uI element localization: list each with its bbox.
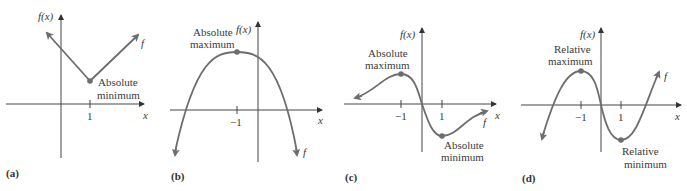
panel-b: f(x) f x −1 Absolute maximum (b) <box>170 22 323 183</box>
panel-label: (b) <box>171 170 185 183</box>
x-axis-label: x <box>494 109 500 121</box>
tick-label-1: 1 <box>439 110 445 122</box>
panel-label: (c) <box>345 171 358 184</box>
arrow-left <box>175 148 176 155</box>
curve-right <box>90 35 138 81</box>
curve <box>175 52 297 152</box>
y-axis-label: f(x) <box>400 28 416 41</box>
min-annotation-line2: minimum <box>624 158 667 170</box>
x-axis-label: x <box>317 114 323 126</box>
curve-label: f <box>664 70 669 82</box>
panel-label: (a) <box>6 167 19 180</box>
min-annotation-line2: minimum <box>441 151 484 163</box>
tick-label: −1 <box>230 116 242 128</box>
curve-left <box>47 33 90 81</box>
arrow-left <box>542 132 544 139</box>
panel-d: f(x) f x −1 1 Relative maximum Relative … <box>521 28 681 185</box>
curve-label: f <box>303 146 308 158</box>
tick-label-1: 1 <box>618 111 624 123</box>
annotation-line1: Absolute <box>193 26 233 38</box>
min-point <box>439 133 445 139</box>
max-point <box>234 49 240 55</box>
max-point <box>578 68 584 74</box>
curve <box>355 74 486 136</box>
max-annotation-line1: Absolute <box>368 47 408 59</box>
y-axis-label: f(x) <box>580 28 596 41</box>
min-point <box>618 137 624 143</box>
max-annotation-line1: Relative <box>554 43 591 55</box>
max-point <box>398 71 404 77</box>
annotation-line2: minimum <box>97 89 140 101</box>
tick-label-neg1: −1 <box>575 111 587 123</box>
tick-label-neg1: −1 <box>395 110 407 122</box>
curve-label: f <box>483 116 488 128</box>
curve-label: f <box>141 37 146 49</box>
min-annotation-line1: Relative <box>622 145 659 157</box>
tick-label: 1 <box>87 110 93 122</box>
min-point <box>87 78 93 84</box>
annotation-line2: maximum <box>190 38 235 50</box>
arrow-right <box>296 148 297 155</box>
y-axis-label: f(x) <box>38 10 54 23</box>
y-axis-label: f(x) <box>236 23 252 36</box>
arrow-left <box>355 96 362 98</box>
annotation-line1: Absolute <box>98 76 138 88</box>
figure-extrema-panels: f(x) f x 1 Absolute minimum (a) f(x) f x… <box>0 0 687 191</box>
max-annotation-line2: maximum <box>548 55 593 67</box>
panel-a: f(x) f x 1 Absolute minimum (a) <box>6 10 148 180</box>
x-axis-label: x <box>674 110 680 122</box>
panel-c: f(x) f x −1 1 Absolute maximum Absolute … <box>344 28 500 184</box>
x-axis-label: x <box>142 109 148 121</box>
max-annotation-line2: maximum <box>365 59 410 71</box>
panel-label: (d) <box>522 172 536 185</box>
min-annotation-line1: Absolute <box>444 139 484 151</box>
